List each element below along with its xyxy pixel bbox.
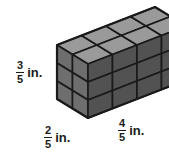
height-label: 3 5 in.: [16, 60, 42, 85]
width-unit: in.: [129, 124, 144, 137]
width-denominator: 5: [118, 131, 126, 143]
depth-unit: in.: [55, 131, 70, 144]
width-fraction: 4 5: [118, 118, 126, 143]
height-denominator: 5: [16, 73, 24, 85]
width-label: 4 5 in.: [118, 118, 144, 143]
depth-numerator: 2: [44, 125, 52, 137]
geometry-figure: 3 5 in. 2 5 in. 4 5 in.: [0, 0, 169, 155]
depth-label: 2 5 in.: [44, 125, 70, 150]
height-unit: in.: [27, 66, 42, 79]
height-fraction: 3 5: [16, 60, 24, 85]
depth-denominator: 5: [44, 138, 52, 150]
width-numerator: 4: [118, 118, 126, 130]
depth-fraction: 2 5: [44, 125, 52, 150]
height-numerator: 3: [16, 60, 24, 72]
